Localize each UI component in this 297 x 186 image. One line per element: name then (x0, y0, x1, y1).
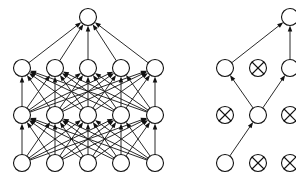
active-unit-node[interactable] (250, 107, 267, 124)
dropped-unit-node[interactable] (282, 155, 297, 172)
unit-circle-icon (147, 60, 164, 77)
unit-circle-icon (282, 60, 297, 77)
unit-circle-icon (217, 60, 234, 77)
active-unit-node[interactable] (47, 60, 64, 77)
unit-circle-icon (113, 60, 130, 77)
unit-circle-icon (80, 9, 97, 26)
unit-circle-icon (147, 155, 164, 172)
active-unit-node[interactable] (14, 155, 31, 172)
active-unit-node[interactable] (80, 9, 97, 26)
active-unit-node[interactable] (80, 155, 97, 172)
unit-circle-icon (47, 60, 64, 77)
unit-circle-icon (147, 107, 164, 124)
active-unit-node[interactable] (217, 60, 234, 77)
network-diagram-canvas (0, 0, 296, 186)
dropped-unit-node[interactable] (217, 107, 234, 124)
unit-circle-icon (47, 107, 64, 124)
active-unit-node[interactable] (14, 60, 31, 77)
unit-circle-icon (113, 107, 130, 124)
active-unit-node[interactable] (282, 9, 297, 26)
active-unit-node[interactable] (147, 60, 164, 77)
active-unit-node[interactable] (80, 60, 97, 77)
active-unit-node[interactable] (282, 60, 297, 77)
active-unit-node[interactable] (113, 107, 130, 124)
dropped-unit-node[interactable] (250, 155, 267, 172)
active-unit-node[interactable] (14, 107, 31, 124)
dropout-figure (0, 0, 296, 186)
active-unit-node[interactable] (217, 155, 234, 172)
active-unit-node[interactable] (113, 155, 130, 172)
active-unit-node[interactable] (113, 60, 130, 77)
unit-circle-icon (14, 60, 31, 77)
unit-circle-icon (250, 107, 267, 124)
dropped-unit-node[interactable] (250, 60, 267, 77)
active-unit-node[interactable] (47, 155, 64, 172)
dropped-unit-node[interactable] (282, 107, 297, 124)
unit-circle-icon (47, 155, 64, 172)
unit-circle-icon (217, 155, 234, 172)
unit-circle-icon (282, 155, 297, 172)
unit-circle-icon (113, 155, 130, 172)
unit-circle-icon (14, 107, 31, 124)
unit-circle-icon (80, 60, 97, 77)
active-unit-node[interactable] (147, 107, 164, 124)
unit-circle-icon (282, 9, 297, 26)
active-unit-node[interactable] (47, 107, 64, 124)
unit-circle-icon (80, 155, 97, 172)
active-unit-node[interactable] (147, 155, 164, 172)
unit-circle-icon (14, 155, 31, 172)
unit-circle-icon (282, 107, 297, 124)
unit-circle-icon (80, 107, 97, 124)
active-unit-node[interactable] (80, 107, 97, 124)
